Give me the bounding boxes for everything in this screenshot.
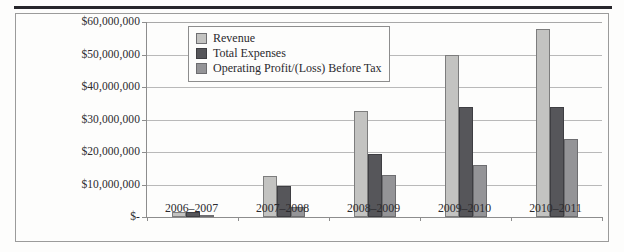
- legend-swatch-revenue: [196, 33, 207, 44]
- x-axis-tick-mark: [511, 217, 512, 221]
- x-axis-tick-mark: [602, 217, 603, 221]
- legend-item: Total Expenses: [196, 46, 382, 61]
- legend-swatch-total-expenses: [196, 48, 207, 59]
- gridline: [147, 120, 602, 121]
- bar: [536, 29, 550, 218]
- y-axis-tick-label: $10,000,000: [30, 179, 140, 190]
- y-axis-tick-label: $20,000,000: [30, 146, 140, 157]
- x-axis-tick-label: 2008–2009: [329, 201, 419, 216]
- legend-item-label: Operating Profit/(Loss) Before Tax: [213, 62, 382, 75]
- chart-page: $60,000,000$50,000,000$40,000,000$30,000…: [0, 0, 624, 252]
- y-axis-tick-label: $40,000,000: [30, 81, 140, 92]
- x-axis-tick-label: 2007–2008: [238, 201, 328, 216]
- gridline: [147, 87, 602, 88]
- x-axis-tick-label: 2009–2010: [420, 201, 510, 216]
- legend-item: Operating Profit/(Loss) Before Tax: [196, 61, 382, 76]
- x-axis-tick-label: 2010–2011: [511, 201, 601, 216]
- x-axis-tick-mark: [238, 217, 239, 221]
- x-axis-tick-mark: [329, 217, 330, 221]
- top-horizontal-rule: [14, 6, 612, 9]
- legend-swatch-operating-profit: [196, 63, 207, 74]
- legend-item: Revenue: [196, 31, 382, 46]
- legend-item-label: Total Expenses: [213, 47, 286, 60]
- legend-item-label: Revenue: [213, 32, 255, 45]
- y-axis-tick-label: $50,000,000: [30, 49, 140, 60]
- x-axis-tick-label: 2006–2007: [147, 201, 237, 216]
- x-axis-tick-mark: [420, 217, 421, 221]
- y-axis-tick-label: $60,000,000: [30, 16, 140, 27]
- bar: [445, 55, 459, 218]
- x-axis-tick-mark: [147, 217, 148, 221]
- y-axis-tick-label: $30,000,000: [30, 114, 140, 125]
- y-axis-tick-label: $-: [30, 211, 140, 222]
- chart-legend: RevenueTotal ExpensesOperating Profit/(L…: [188, 26, 390, 82]
- gridline: [147, 22, 602, 23]
